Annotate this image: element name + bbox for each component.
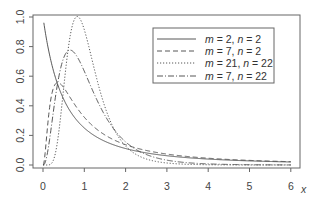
legend-label: m = 21, n = 22: [205, 57, 273, 69]
x-axis: 0123456: [40, 168, 294, 192]
y-tick-label: 0.0: [14, 158, 26, 173]
legend-label: m = 7, n = 22: [205, 70, 267, 82]
y-tick-label: 0.8: [14, 39, 26, 54]
legend-label: m = 2, n = 2: [205, 33, 261, 45]
legend: m = 2, n = 2m = 7, n = 2m = 21, n = 22m …: [153, 28, 274, 83]
x-tick-label: 0: [40, 180, 46, 192]
y-tick-label: 0.6: [14, 69, 26, 84]
x-tick-label: 6: [288, 180, 294, 192]
y-tick-label: 0.2: [14, 128, 26, 143]
y-axis: 0.00.20.40.60.81.0: [14, 10, 33, 173]
x-tick-label: 2: [123, 180, 129, 192]
x-tick-label: 1: [81, 180, 87, 192]
x-axis-label: x: [300, 183, 307, 195]
f-distribution-chart: 0123456 0.00.20.40.60.81.0 m = 2, n = 2m…: [0, 0, 315, 200]
y-tick-label: 0.4: [14, 98, 26, 113]
x-tick-label: 5: [247, 180, 253, 192]
x-tick-label: 3: [164, 180, 170, 192]
x-tick-label: 4: [205, 180, 211, 192]
y-tick-label: 1.0: [14, 10, 26, 25]
legend-label: m = 7, n = 2: [205, 45, 261, 57]
